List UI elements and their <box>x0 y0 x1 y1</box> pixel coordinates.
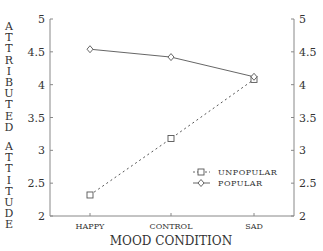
square-marker <box>198 169 204 175</box>
y-tick-label-left: 4.5 <box>28 46 46 59</box>
line-chart: 222.52.5333.53.5444.54.555HAPPYCONTROLSA… <box>0 0 323 251</box>
y-tick-label-right: 3.5 <box>299 112 317 125</box>
y-tick-label-left: 5 <box>38 13 45 26</box>
y-tick-label-right: 5 <box>299 13 306 26</box>
square-marker <box>168 136 174 142</box>
diamond-marker <box>198 180 204 187</box>
y-tick-label-left: 2 <box>38 210 45 223</box>
y-tick-label-right: 2 <box>299 210 306 223</box>
legend-label: UNPOPULAR <box>218 168 278 177</box>
axes: 222.52.5333.53.5444.54.555HAPPYCONTROLSA… <box>28 13 317 231</box>
legend-item-popular: POPULAR <box>193 179 263 188</box>
diamond-marker <box>87 46 93 53</box>
y-tick-label-left: 4 <box>38 79 45 92</box>
y-tick-label-right: 4 <box>299 79 306 92</box>
series-popular <box>87 46 257 81</box>
legend-label: POPULAR <box>218 179 263 188</box>
x-axis-label: MOOD CONDITION <box>110 234 232 248</box>
legend-item-unpopular: UNPOPULAR <box>193 168 278 177</box>
diamond-marker <box>168 54 174 61</box>
y-tick-label-right: 4.5 <box>299 46 317 59</box>
x-tick-label: SAD <box>245 222 263 231</box>
square-marker <box>87 192 93 198</box>
legend: UNPOPULARPOPULAR <box>193 168 278 188</box>
y-tick-label-right: 2.5 <box>299 177 317 190</box>
x-tick-label: HAPPY <box>76 222 106 231</box>
y-tick-label-left: 2.5 <box>28 177 46 190</box>
y-tick-label-left: 3.5 <box>28 112 46 125</box>
y-tick-label-left: 3 <box>38 144 45 157</box>
y-tick-label-right: 3 <box>299 144 306 157</box>
x-tick-label: CONTROL <box>150 222 194 231</box>
